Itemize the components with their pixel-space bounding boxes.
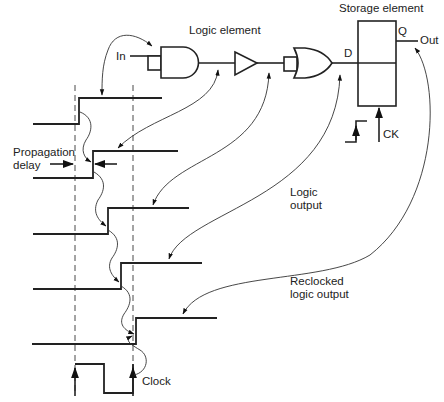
out-label: Out xyxy=(420,34,439,47)
propagation-label-line1: Propagation xyxy=(13,146,75,159)
q-pin-label: Q xyxy=(398,25,407,38)
reclocked-label-line1: Reclocked xyxy=(290,275,344,288)
propagation-label-line2: delay xyxy=(13,159,41,172)
d-pin-label: D xyxy=(344,47,352,60)
diagram-graphics xyxy=(0,0,444,402)
logic-element-label: Logic element xyxy=(189,24,261,37)
input-box xyxy=(148,56,161,70)
propagation-curve-3 xyxy=(108,230,119,282)
or-gate xyxy=(294,48,332,78)
propagation-curve-clock xyxy=(128,336,146,375)
input-to-waveform-curve xyxy=(102,35,152,95)
ck-label: CK xyxy=(383,128,399,141)
or-input-box xyxy=(284,57,297,71)
buffer-to-waveform-curve xyxy=(153,73,269,205)
timing-diagram: Logic element Storage element In D Q Out… xyxy=(0,0,444,402)
logic-output-label-line1: Logic xyxy=(290,186,318,199)
waveform-reclocked-output xyxy=(32,318,217,344)
propagation-curve-4 xyxy=(121,286,134,334)
buffer-gate xyxy=(235,52,257,75)
clock-label: Clock xyxy=(142,375,171,388)
logic-output-label-line2: output xyxy=(290,199,322,212)
storage-element-label: Storage element xyxy=(339,2,423,15)
reclocked-label-line2: logic output xyxy=(290,288,349,301)
and-gate xyxy=(161,47,198,78)
input-label: In xyxy=(116,50,126,63)
waveform-clock xyxy=(75,364,133,393)
waveform-buffer-output xyxy=(33,208,189,234)
propagation-curve-1 xyxy=(80,112,91,162)
waveform-input xyxy=(33,98,162,124)
propagation-curve-2 xyxy=(94,172,106,226)
waveform-logic-output xyxy=(33,263,202,289)
